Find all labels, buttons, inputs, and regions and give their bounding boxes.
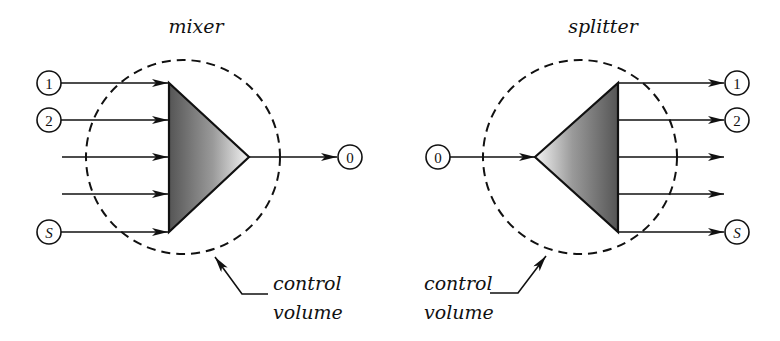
mixer-control-volume-callout: control volume [215,257,343,323]
mixer-inlet-1: 1 [37,71,168,95]
stream-label: 0 [434,150,442,166]
mixer-unit: mixer 1 2 S 0 [37,15,362,323]
control-volume-label-line1: control [424,272,493,294]
stream-label: S [45,225,53,241]
stream-label: 1 [45,76,53,92]
mixer-title: mixer [168,15,225,37]
splitter-triangle-icon [535,83,618,232]
splitter-outlet-2: 2 [618,108,749,132]
stream-label: 2 [45,113,53,129]
control-volume-label-line1: control [273,272,342,294]
stream-label: 0 [346,150,354,166]
leader-arrow-icon [215,257,268,294]
mixer-outlet-0: 0 [249,145,362,169]
control-volume-label-line2: volume [273,301,343,323]
splitter-outlet-s: S [618,220,749,244]
stream-label: S [733,225,741,241]
leader-arrow-icon [490,256,546,293]
splitter-unit: splitter 0 1 2 S [424,15,749,323]
mixer-inlet-s: S [37,220,168,244]
mixer-triangle-icon [169,83,249,232]
mixer-inlet-2: 2 [37,108,168,132]
stream-label: 2 [733,113,741,129]
splitter-inlet-0: 0 [426,145,535,169]
splitter-title: splitter [568,15,640,37]
mixer-splitter-diagram: mixer 1 2 S 0 [0,0,780,341]
splitter-outlet-1: 1 [618,71,749,95]
control-volume-label-line2: volume [424,301,494,323]
splitter-control-volume-callout: control volume [424,256,546,323]
stream-label: 1 [733,76,741,92]
